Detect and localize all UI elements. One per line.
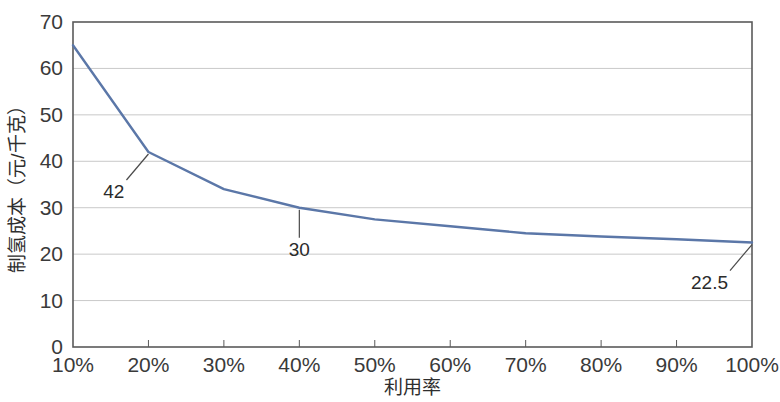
y-tick-label-50: 50 (40, 103, 63, 126)
x-tick-label-40pct: 40% (278, 353, 320, 376)
y-tick-label-60: 60 (40, 56, 63, 79)
y-tick-label-20: 20 (40, 242, 63, 265)
x-tick-label-90pct: 90% (656, 353, 698, 376)
x-tick-label-60pct: 60% (429, 353, 471, 376)
y-tick-label-40: 40 (40, 149, 63, 172)
y-axis-title: 制氢成本（元/千克） (7, 96, 28, 272)
x-axis-title: 利用率 (384, 377, 441, 398)
y-tick-label-70: 70 (40, 10, 63, 33)
x-tick-label-50pct: 50% (354, 353, 396, 376)
annotation-label-22.5: 22.5 (691, 272, 728, 293)
x-tick-label-20pct: 20% (127, 353, 169, 376)
x-tick-label-10pct: 10% (52, 353, 94, 376)
annotation-label-30: 30 (289, 239, 310, 260)
x-tick-label-70pct: 70% (505, 353, 547, 376)
line-chart: 010203040506070 10%20%30%40%50%60%70%80%… (0, 0, 780, 402)
annotation-label-42: 42 (103, 181, 124, 202)
x-tick-label-30pct: 30% (203, 353, 245, 376)
y-tick-label-30: 30 (40, 196, 63, 219)
chart-container: 010203040506070 10%20%30%40%50%60%70%80%… (0, 0, 780, 402)
y-tick-label-10: 10 (40, 289, 63, 312)
x-tick-label-80pct: 80% (580, 353, 622, 376)
x-tick-label-100pct: 100% (725, 353, 779, 376)
